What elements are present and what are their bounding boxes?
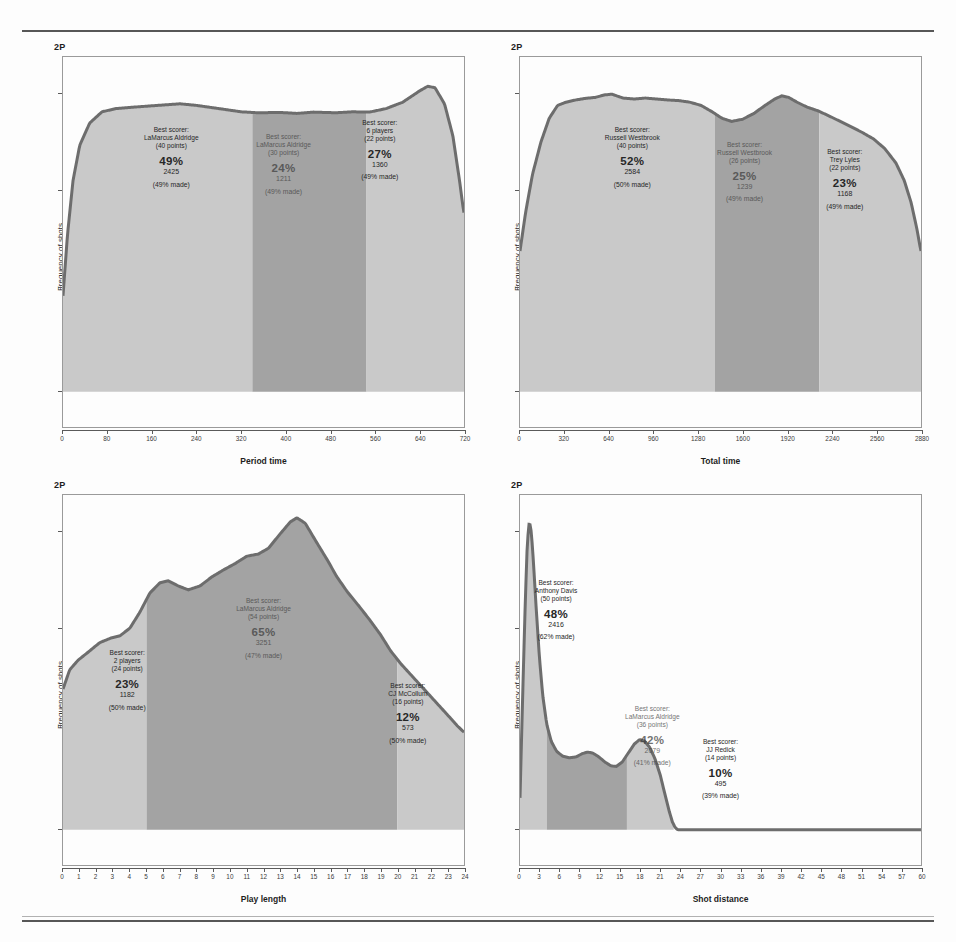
y-axis bbox=[62, 56, 63, 428]
area-segment-light-1 bbox=[520, 94, 715, 392]
x-axis-tick-label: 560 bbox=[370, 435, 381, 442]
y-axis-tick bbox=[58, 391, 62, 392]
x-axis-tick bbox=[465, 430, 466, 434]
chart-panel-4: 2PFrequency of shotsBest scorer:Anthony … bbox=[485, 478, 928, 912]
x-axis-tick bbox=[230, 868, 231, 872]
x-axis-tick bbox=[559, 868, 560, 872]
y-axis bbox=[519, 56, 520, 428]
x-axis: 0320640960128016001920224025602880 bbox=[519, 430, 922, 444]
x-axis-tick bbox=[922, 868, 923, 872]
figure-page: 2PFrequency of shotsBest scorer:LaMarcus… bbox=[0, 0, 956, 942]
x-axis-tick-label: 14 bbox=[294, 873, 301, 880]
x-axis-tick-label: 480 bbox=[325, 435, 336, 442]
x-axis-label: Play length bbox=[62, 894, 465, 904]
x-axis-tick-label: 22 bbox=[428, 873, 435, 880]
area-segment-light-3 bbox=[819, 111, 921, 391]
chart-panel-3: 2PFrequency of shotsBest scorer:2 player… bbox=[28, 478, 471, 912]
y-axis-tick bbox=[58, 93, 62, 94]
x-axis-tick-label: 15 bbox=[616, 873, 623, 880]
x-axis-tick-label: 0 bbox=[60, 435, 64, 442]
x-axis-label: Total time bbox=[519, 456, 922, 466]
panel-grid: 2PFrequency of shotsBest scorer:LaMarcus… bbox=[28, 40, 928, 912]
x-axis-tick bbox=[96, 868, 97, 872]
x-axis-tick bbox=[519, 430, 520, 434]
x-axis-tick-label: 17 bbox=[344, 873, 351, 880]
area-segment-light-3 bbox=[627, 740, 674, 830]
x-axis-tick bbox=[364, 868, 365, 872]
x-axis-tick bbox=[375, 430, 376, 434]
x-axis-tick bbox=[331, 430, 332, 434]
panel-tag: 2P bbox=[54, 480, 65, 490]
panel-tag: 2P bbox=[511, 42, 522, 52]
x-axis-tick bbox=[680, 868, 681, 872]
x-axis-tick bbox=[653, 430, 654, 434]
x-axis-tick bbox=[698, 430, 699, 434]
density-area-plot bbox=[520, 57, 921, 427]
x-axis-tick-label: 2 bbox=[94, 873, 98, 880]
x-axis-tick-label: 2240 bbox=[825, 435, 839, 442]
area-segment-dark-2 bbox=[252, 112, 366, 392]
x-axis-tick-label: 60 bbox=[918, 873, 925, 880]
x-axis-tick bbox=[62, 868, 63, 872]
x-axis-tick-label: 160 bbox=[146, 435, 157, 442]
x-axis-tick bbox=[112, 868, 113, 872]
x-axis-tick-label: 33 bbox=[737, 873, 744, 880]
area-segment-dark-2 bbox=[547, 724, 627, 830]
y-axis-tick bbox=[58, 287, 62, 288]
x-axis: 03691215182124273033363942454851545760 bbox=[519, 868, 922, 882]
x-axis-tick bbox=[152, 430, 153, 434]
x-axis-tick bbox=[519, 868, 520, 872]
x-axis-tick bbox=[539, 868, 540, 872]
x-axis-tick-label: 0 bbox=[60, 873, 64, 880]
x-axis-tick-label: 27 bbox=[697, 873, 704, 880]
panel-tag: 2P bbox=[54, 42, 65, 52]
x-axis-tick bbox=[62, 430, 63, 434]
plot-area: Best scorer:2 players(24 points)23%1182(… bbox=[62, 494, 465, 866]
x-axis-tick bbox=[801, 868, 802, 872]
plot-area: Best scorer:LaMarcus Aldridge(40 points)… bbox=[62, 56, 465, 428]
x-axis-tick bbox=[721, 868, 722, 872]
x-axis-tick-label: 6 bbox=[558, 873, 562, 880]
x-axis-tick bbox=[146, 868, 147, 872]
x-axis-tick-label: 8 bbox=[195, 873, 199, 880]
x-axis-tick-label: 5 bbox=[144, 873, 148, 880]
y-axis-tick bbox=[58, 628, 62, 629]
x-axis-tick bbox=[415, 868, 416, 872]
x-axis-tick bbox=[196, 868, 197, 872]
area-segment-light-3 bbox=[397, 659, 464, 830]
x-axis-tick-label: 18 bbox=[361, 873, 368, 880]
x-axis-tick bbox=[129, 868, 130, 872]
x-axis-tick bbox=[761, 868, 762, 872]
x-axis-tick-label: 24 bbox=[677, 873, 684, 880]
y-axis-tick bbox=[515, 829, 519, 830]
x-axis-tick-label: 720 bbox=[460, 435, 471, 442]
x-axis-tick bbox=[213, 868, 214, 872]
x-axis-tick-label: 39 bbox=[777, 873, 784, 880]
y-axis-tick bbox=[515, 391, 519, 392]
x-axis-tick bbox=[922, 430, 923, 434]
x-axis-tick-label: 400 bbox=[281, 435, 292, 442]
x-axis-tick bbox=[781, 868, 782, 872]
x-axis-tick-label: 9 bbox=[578, 873, 582, 880]
y-axis-tick bbox=[58, 190, 62, 191]
x-axis-tick bbox=[286, 430, 287, 434]
x-axis-tick-label: 18 bbox=[636, 873, 643, 880]
x-axis-tick-label: 51 bbox=[858, 873, 865, 880]
plot-area: Best scorer:Anthony Davis(50 points)48%2… bbox=[519, 494, 922, 866]
area-segment-dark-2 bbox=[715, 96, 819, 392]
x-axis-tick bbox=[347, 868, 348, 872]
page-rule-mid bbox=[22, 916, 934, 917]
x-axis-tick-label: 20 bbox=[394, 873, 401, 880]
x-axis-tick bbox=[331, 868, 332, 872]
x-axis-tick bbox=[431, 868, 432, 872]
x-axis-tick bbox=[381, 868, 382, 872]
x-axis-tick-label: 0 bbox=[517, 435, 521, 442]
x-axis-tick-label: 2880 bbox=[915, 435, 929, 442]
x-axis-tick bbox=[902, 868, 903, 872]
x-axis-tick bbox=[448, 868, 449, 872]
x-axis-tick-label: 9 bbox=[211, 873, 215, 880]
x-axis-tick bbox=[398, 868, 399, 872]
x-axis-tick-label: 0 bbox=[517, 873, 521, 880]
x-axis-tick bbox=[832, 430, 833, 434]
x-axis-tick-label: 640 bbox=[415, 435, 426, 442]
